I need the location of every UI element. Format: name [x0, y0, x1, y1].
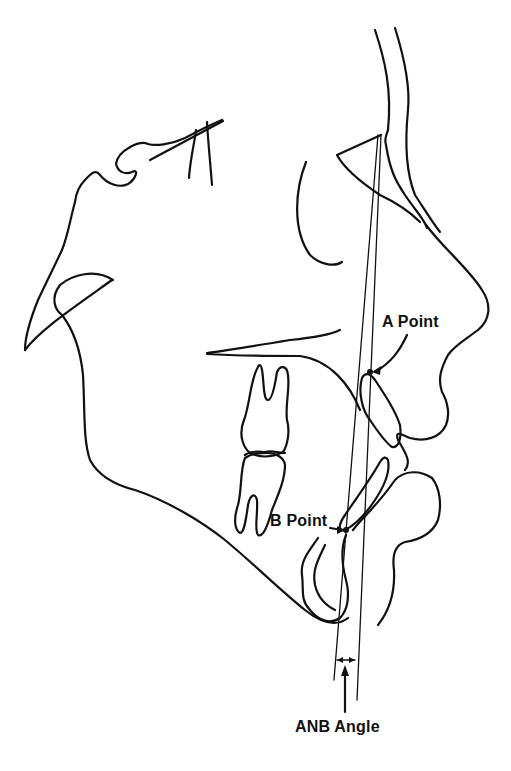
soft-tissue-profile	[397, 225, 488, 470]
anb-angle-label: ANB Angle	[295, 718, 380, 736]
frontal-bone-inner	[375, 30, 427, 228]
anb-left-arrowhead-icon	[337, 657, 343, 663]
upper-molar	[241, 365, 288, 456]
palatal-plane	[207, 330, 360, 410]
pterygoid-mark-2	[207, 122, 212, 185]
b-point-arrowhead-icon	[337, 526, 345, 534]
a-point-arrowhead-icon	[372, 366, 381, 375]
line-nasion-to-b-point	[334, 135, 378, 680]
anb-pointer-arrowhead-icon	[341, 665, 349, 676]
porion-line	[25, 280, 112, 350]
frontal-bone-outer	[395, 28, 440, 232]
condyle-outline	[54, 274, 113, 375]
a-point-arrow	[375, 335, 407, 372]
a-point-label: A Point	[382, 313, 439, 331]
orbit-arc	[297, 162, 342, 265]
sphenoid-line	[150, 121, 223, 160]
anb-right-arrowhead-icon	[349, 657, 355, 663]
mandible-outline	[83, 375, 348, 623]
upper-incisor	[360, 374, 400, 447]
symphysis-outer	[302, 535, 348, 621]
line-nasion-to-a-point	[357, 135, 381, 700]
symphysis-inner	[314, 545, 335, 610]
b-point-label: B Point	[270, 512, 327, 530]
cephalometric-tracing	[0, 0, 511, 771]
